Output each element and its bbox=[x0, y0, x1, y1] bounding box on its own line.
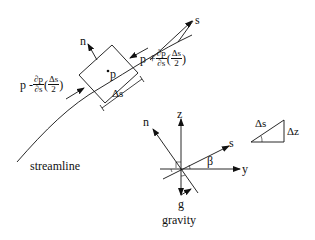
p-label-center: p bbox=[110, 68, 116, 80]
g-label: g bbox=[178, 198, 184, 210]
z-axis-label: z bbox=[177, 108, 182, 120]
eq-right-half-ds: Δs 2 bbox=[171, 49, 182, 68]
eq-right-derivative: ∂p ∂s bbox=[156, 49, 167, 68]
eq-right-prefix: p + bbox=[140, 53, 156, 65]
center-point bbox=[107, 70, 110, 73]
eq-left-prefix: p - bbox=[20, 79, 33, 91]
eq-left-half-ds: Δs 2 bbox=[48, 75, 59, 94]
delta-s-box-label: Δs bbox=[112, 88, 123, 99]
fluid-element-box bbox=[79, 45, 138, 103]
pressure-arrow-left bbox=[66, 88, 84, 99]
s-label-top: s bbox=[195, 14, 200, 26]
pressure-right-equation: p + ∂p ∂s ( Δs 2 ) bbox=[140, 49, 186, 68]
y-axis-label: y bbox=[242, 163, 248, 175]
n-axis-label: n bbox=[143, 116, 149, 128]
s-axis-label: s bbox=[229, 137, 234, 149]
pressure-left-equation: p - ∂p ∂s ( Δs 2 ) bbox=[20, 75, 63, 94]
streamline-label: streamline bbox=[30, 160, 80, 172]
gravity-label: gravity bbox=[162, 214, 196, 226]
triangle-side-label: Δz bbox=[287, 126, 299, 137]
eq-left-derivative: ∂p ∂s bbox=[33, 75, 44, 94]
gravity-axes bbox=[153, 119, 240, 195]
triangle-hyp-label: Δs bbox=[255, 118, 266, 129]
diagram-graphics bbox=[0, 0, 315, 240]
n-arrow bbox=[88, 44, 97, 60]
beta-angle-label: β bbox=[207, 155, 213, 167]
streamline-force-diagram: s n p Δs p - ∂p ∂s ( Δs 2 ) p + ∂p ∂s ( … bbox=[0, 0, 315, 240]
n-label-top: n bbox=[80, 35, 86, 47]
